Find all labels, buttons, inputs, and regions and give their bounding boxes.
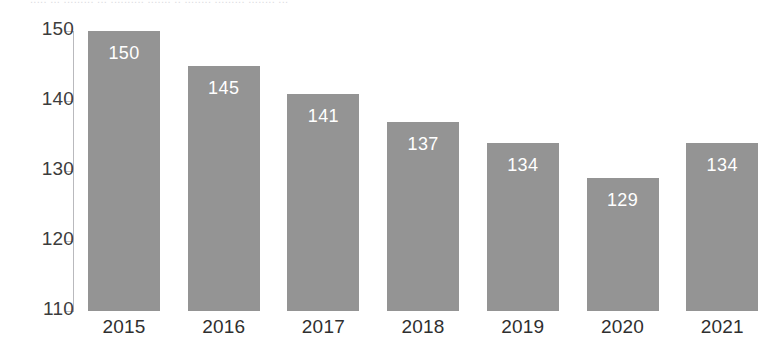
bar-chart: ..... ... ......... ... .......... .....…	[0, 0, 773, 360]
y-axis-tick-label: 110	[28, 298, 74, 320]
bar[interactable]: 150	[88, 31, 160, 311]
bar-value-label: 129	[587, 190, 659, 211]
bar[interactable]: 145	[188, 66, 260, 311]
bar[interactable]: 129	[587, 178, 659, 311]
y-axis-tick-label: 130	[28, 158, 74, 180]
bar-value-label: 134	[487, 155, 559, 176]
y-axis-tick-label: 140	[28, 88, 74, 110]
x-axis-category-label: 2018	[387, 316, 459, 338]
bar[interactable]: 134	[686, 143, 758, 311]
x-axis-category-label: 2017	[287, 316, 359, 338]
x-axis-category-label: 2015	[88, 316, 160, 338]
y-axis-tick-label: 150	[28, 18, 74, 40]
bar[interactable]: 137	[387, 122, 459, 311]
bar-value-label: 145	[188, 78, 260, 99]
x-axis-category-label: 2020	[587, 316, 659, 338]
bar-value-label: 134	[686, 155, 758, 176]
bar[interactable]: 134	[487, 143, 559, 311]
bar-value-label: 137	[387, 134, 459, 155]
bar-value-label: 141	[287, 106, 359, 127]
x-axis-category-label: 2016	[188, 316, 260, 338]
bar[interactable]: 141	[287, 94, 359, 311]
bar-value-label: 150	[88, 43, 160, 64]
x-axis-category-label: 2021	[686, 316, 758, 338]
y-axis-tick-label: 120	[28, 228, 74, 250]
x-axis-category-label: 2019	[487, 316, 559, 338]
plot-area: 110120130140150 150145141137134129134 20…	[0, 0, 773, 360]
